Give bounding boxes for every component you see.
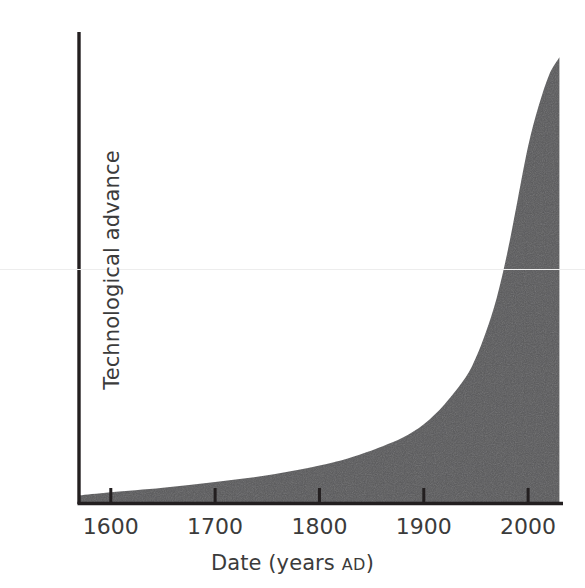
- y-axis-title: Technological advance: [100, 80, 124, 460]
- x-axis-title-tail: ): [366, 551, 374, 575]
- exponential-growth-area: [80, 57, 560, 502]
- technological-advance-chart: 16001700180019002000 Date (years AD) Tec…: [0, 0, 585, 588]
- x-axis-tick-label: 1600: [71, 514, 151, 539]
- x-axis-tick-label: 1900: [384, 514, 464, 539]
- chart-plot-area: [0, 0, 585, 588]
- x-axis-tick-label: 1800: [280, 514, 360, 539]
- x-axis-title: Date (years AD): [0, 551, 585, 575]
- x-axis-tick-label: 1700: [175, 514, 255, 539]
- x-axis-title-era: AD: [342, 555, 366, 574]
- x-axis-tick-label: 2000: [488, 514, 568, 539]
- x-axis-title-main: Date (years: [211, 551, 342, 575]
